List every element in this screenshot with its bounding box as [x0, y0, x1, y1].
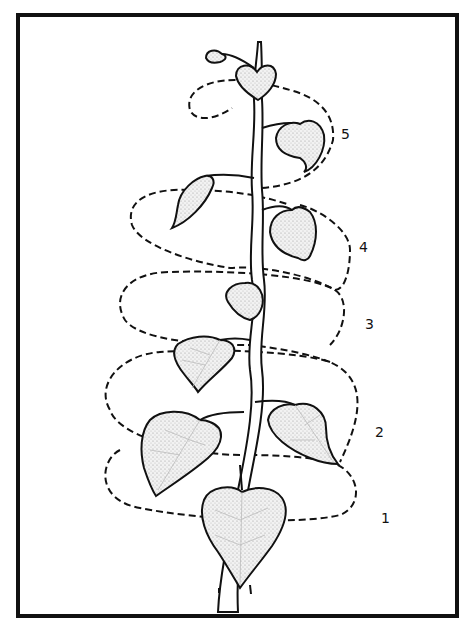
leaf-tiny-top [206, 51, 226, 63]
leaves [142, 51, 338, 588]
stage-label-3: 3 [365, 317, 374, 331]
leaf-left-3 [174, 337, 234, 392]
leaf-right-4 [270, 207, 316, 260]
path-loop-4 [131, 190, 350, 290]
leaf-left-4 [172, 176, 214, 228]
leaf-top-heart [236, 66, 276, 101]
leaf-left-2 [142, 412, 222, 496]
leaf-middle [226, 283, 263, 320]
leaf-5 [276, 121, 324, 172]
stage-label-2: 2 [375, 425, 384, 439]
stage-label-4: 4 [359, 240, 368, 254]
stage-label-1: 1 [381, 511, 390, 525]
stage-label-5: 5 [341, 127, 350, 141]
plant-illustration [0, 0, 472, 633]
leaf-bottom-heart [202, 487, 286, 588]
